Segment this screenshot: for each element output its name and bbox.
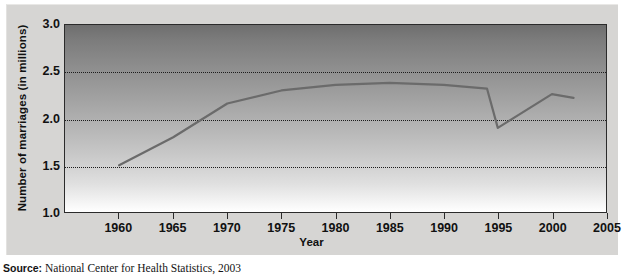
chart-figure: Number of marriages (in millions) 1.01.5… [0, 0, 623, 279]
x-tick-label: 2005 [582, 221, 623, 235]
x-tick-mark [281, 213, 282, 219]
y-tick-label: 1.5 [26, 159, 60, 173]
y-tick-label: 2.5 [26, 64, 60, 78]
line-series-svg [65, 25, 606, 212]
x-tick-label: 1985 [365, 221, 415, 235]
x-tick-mark [227, 213, 228, 219]
source-note: Source: National Center for Health Stati… [3, 262, 241, 274]
x-tick-label: 1965 [148, 221, 198, 235]
x-tick-mark [498, 213, 499, 219]
x-tick-label: 1970 [202, 221, 252, 235]
x-tick-label: 2000 [528, 221, 578, 235]
x-tick-mark [444, 213, 445, 219]
x-tick-mark [118, 213, 119, 219]
y-tick-label: 1.0 [26, 206, 60, 220]
x-tick-label: 1980 [311, 221, 361, 235]
x-tick-mark [553, 213, 554, 219]
x-tick-mark [607, 213, 608, 219]
data-line [119, 83, 573, 165]
x-tick-label: 1975 [256, 221, 306, 235]
x-tick-label: 1995 [473, 221, 523, 235]
x-tick-label: 1960 [93, 221, 143, 235]
x-tick-mark [336, 213, 337, 219]
plot-area [64, 24, 607, 213]
source-label: Source: [3, 262, 42, 274]
y-tick-label: 3.0 [26, 17, 60, 31]
x-tick-mark [173, 213, 174, 219]
x-tick-mark [390, 213, 391, 219]
x-tick-label: 1990 [419, 221, 469, 235]
source-text: National Center for Health Statistics, 2… [42, 262, 241, 274]
y-tick-label: 2.0 [26, 112, 60, 126]
x-axis-title: Year [0, 236, 623, 248]
